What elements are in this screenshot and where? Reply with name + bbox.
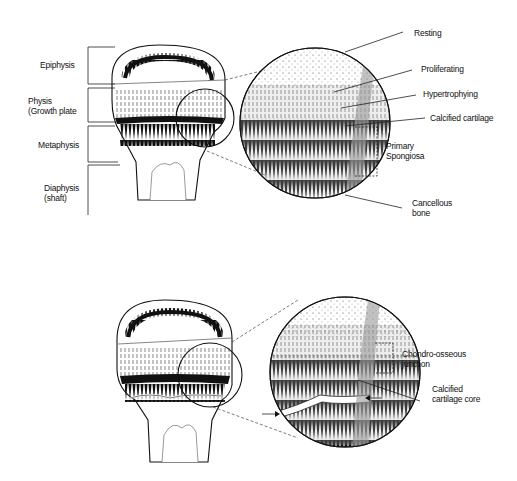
- label-metaphysis: Metaphysis: [38, 140, 79, 150]
- label-shaft: (shaft): [44, 193, 67, 203]
- bone-drawing-bottom: [117, 300, 242, 462]
- growth-plate-diagram: Epiphysis Physis (Growth plate Metaphysi…: [0, 0, 517, 481]
- label-calcified-cartilage: Calcified cartilage: [430, 113, 494, 123]
- label-growth-plate: (Growth plate: [28, 106, 77, 116]
- label-physis: Physis: [28, 96, 52, 106]
- bone-drawing-top: [112, 45, 234, 200]
- label-spongiosa: Spongiosa: [386, 151, 425, 161]
- label-cartilage-core: cartilage core: [432, 394, 481, 404]
- label-primary: Primary: [386, 141, 415, 151]
- label-calcified: Calcified: [432, 384, 463, 394]
- arrow-left-icon: [262, 411, 280, 417]
- zoom-circle-bottom: [270, 297, 420, 450]
- region-brackets: [88, 47, 120, 215]
- label-hypertrophying: Hypertrophying: [423, 89, 478, 99]
- label-resting: Resting: [414, 28, 442, 38]
- label-bone: bone: [412, 208, 431, 218]
- label-epiphysis: Epiphysis: [40, 60, 75, 70]
- top-panel: Epiphysis Physis (Growth plate Metaphysi…: [28, 28, 494, 218]
- label-proliferating: Proliferating: [421, 64, 464, 74]
- label-chondro-osseous: Chondro-osseous: [402, 349, 466, 359]
- label-junction: junction: [401, 359, 430, 369]
- label-diaphysis: Diaphysis: [44, 183, 79, 193]
- label-cancellous: Cancellous: [412, 198, 452, 208]
- bottom-panel: Chondro-osseous junction Calcified carti…: [117, 297, 481, 462]
